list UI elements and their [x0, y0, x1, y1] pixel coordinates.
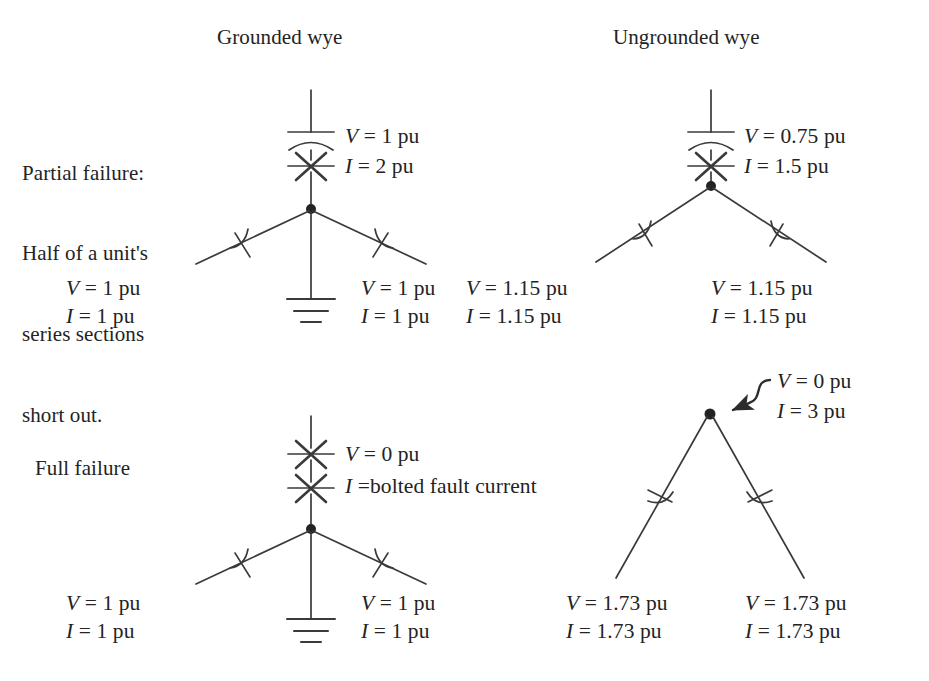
full-grounded-right-current: I = 1 pu [361, 618, 429, 646]
left-branch-line [196, 531, 309, 584]
full-ungrounded-right-voltage: V = 1.73 pu [745, 590, 847, 618]
callout-arrow-icon [733, 380, 770, 410]
partial-grounded-right-voltage: V = 1 pu [361, 275, 435, 303]
full-ungrounded-node-voltage: V = 0 pu [777, 368, 851, 396]
full-grounded-right-voltage: V = 1 pu [361, 590, 435, 618]
full-ungrounded-left-voltage: V = 1.73 pu [566, 590, 668, 618]
right-branch-line [313, 211, 426, 264]
partial-ungrounded-right-voltage: V = 1.15 pu [711, 275, 813, 303]
full-ungrounded-node-current: I = 3 pu [777, 398, 845, 426]
partial-grounded-left-voltage: V = 1 pu [66, 275, 140, 303]
partial-ungrounded-faulted-voltage: V = 0.75 pu [744, 123, 846, 151]
figure-canvas: Grounded wye Ungrounded wye Partial fail… [0, 0, 929, 681]
column-title-grounded: Grounded wye [217, 24, 342, 51]
left-branch-line [596, 188, 709, 262]
full-ungrounded-right-current: I = 1.73 pu [745, 618, 841, 646]
right-branch-line [713, 188, 826, 262]
full-grounded-faulted-current: I =bolted fault current [345, 473, 537, 501]
partial-grounded-faulted-voltage: V = 1 pu [345, 123, 419, 151]
row-title-full-failure: Full failure [35, 455, 130, 482]
full-grounded-left-voltage: V = 1 pu [66, 590, 140, 618]
partial-grounded-right-current: I = 1 pu [361, 303, 429, 331]
partial-grounded-left-current: I = 1 pu [66, 303, 134, 331]
full-grounded-faulted-voltage: V = 0 pu [345, 441, 419, 469]
partial-ungrounded-right-current: I = 1.15 pu [711, 303, 807, 331]
right-branch-line [313, 531, 426, 584]
left-branch-line [196, 211, 309, 264]
row-title-partial-line-4: short out. [22, 402, 148, 429]
capacitor-plate-curved [689, 143, 733, 151]
full-grounded-left-current: I = 1 pu [66, 618, 134, 646]
partial-grounded-faulted-current: I = 2 pu [345, 153, 413, 181]
partial-ungrounded-faulted-current: I = 1.5 pu [744, 153, 829, 181]
partial-ungrounded-left-current: I = 1.15 pu [466, 303, 562, 331]
capacitor-plate-curved [289, 143, 333, 151]
partial-ungrounded-left-voltage: V = 1.15 pu [466, 275, 568, 303]
diagram-full-ungrounded [616, 380, 804, 578]
full-ungrounded-left-current: I = 1.73 pu [566, 618, 662, 646]
column-title-ungrounded: Ungrounded wye [613, 24, 760, 51]
row-title-partial-line-2: Half of a unit's [22, 240, 148, 267]
row-title-partial-line-1: Partial failure: [22, 160, 148, 187]
